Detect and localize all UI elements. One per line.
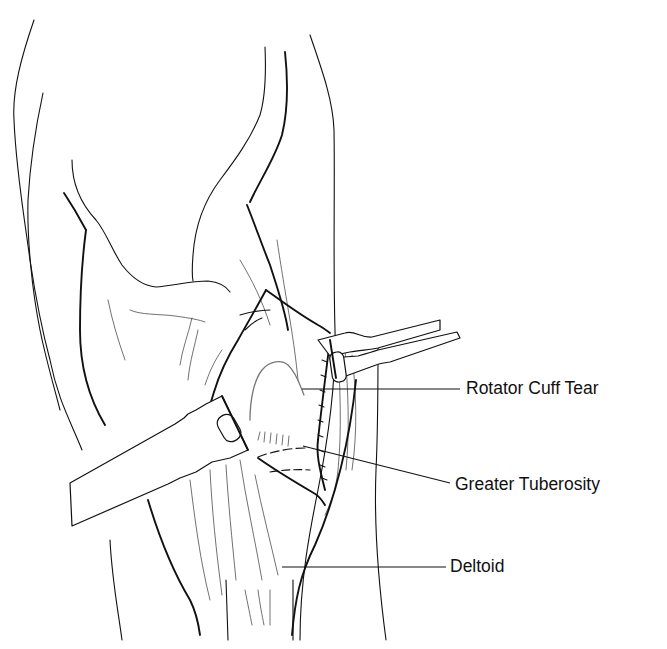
label-greater-tuberosity: Greater Tuberosity [455, 476, 600, 494]
left-retractor [70, 396, 248, 526]
label-deltoid: Deltoid [450, 558, 504, 576]
body-outline [14, 20, 335, 640]
shoulder-surgery-illustration [0, 0, 667, 649]
label-rotator-cuff-tear: Rotator Cuff Tear [466, 380, 599, 398]
incision-wound [180, 290, 356, 515]
right-retractor [318, 320, 460, 383]
